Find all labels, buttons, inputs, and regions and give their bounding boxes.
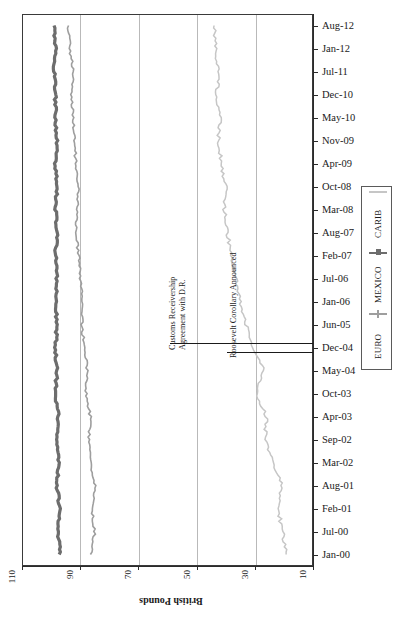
category-label-feb-01: Feb-01 xyxy=(322,503,352,514)
category-label-may-10: May-10 xyxy=(322,112,355,123)
category-tick-dec-04 xyxy=(313,348,318,349)
category-tick-jul-06 xyxy=(313,279,318,280)
category-label-dec-10: Dec-10 xyxy=(322,89,353,100)
category-label-may-04: May-04 xyxy=(322,365,355,376)
category-tick-apr-03 xyxy=(313,417,318,418)
category-label-dec-04: Dec-04 xyxy=(322,342,353,353)
annotation-line-roosevelt xyxy=(227,352,313,353)
category-tick-feb-01 xyxy=(313,509,318,510)
value-tick-label-90: 90 xyxy=(65,570,95,579)
category-tick-aug-01 xyxy=(313,486,318,487)
category-tick-jun-05 xyxy=(313,325,318,326)
category-label-mar-02: Mar-02 xyxy=(322,457,353,468)
category-label-oct-03: Oct-03 xyxy=(322,388,351,399)
category-label-aug-01: Aug-01 xyxy=(322,480,354,491)
category-tick-oct-08 xyxy=(313,187,318,188)
value-tick-label-70: 70 xyxy=(123,570,153,579)
category-tick-jan-06 xyxy=(313,302,318,303)
chart-root: Customs Receivership Agreement with D.R.… xyxy=(0,0,398,629)
series-line-carib xyxy=(214,26,287,555)
value-tick-label-10: 10 xyxy=(298,570,328,579)
category-label-apr-09: Apr-09 xyxy=(322,158,352,169)
legend[interactable]: CARIBMEXICOEURO xyxy=(361,186,392,370)
category-tick-apr-09 xyxy=(313,164,318,165)
legend-marker-carib-icon xyxy=(369,187,387,197)
category-tick-aug-12 xyxy=(313,26,318,27)
category-label-jul-11: Jul-11 xyxy=(322,66,348,77)
legend-item-carib[interactable]: CARIB xyxy=(362,187,393,247)
category-label-jan-12: Jan-12 xyxy=(322,43,350,54)
series-line-mexico xyxy=(53,26,60,555)
value-axis-title: British Pounds xyxy=(96,596,246,607)
category-label-jul-00: Jul-00 xyxy=(322,526,348,537)
annotation-text-customs-line1: Customs Receivership xyxy=(168,277,178,350)
category-label-feb-07: Feb-07 xyxy=(322,250,352,261)
category-label-jun-05: Jun-05 xyxy=(322,319,351,330)
category-tick-nov-09 xyxy=(313,141,318,142)
category-tick-sep-02 xyxy=(313,440,318,441)
annotation-text-roosevelt: Roosevelt Corollary Announced xyxy=(229,252,239,358)
category-tick-dec-10 xyxy=(313,95,318,96)
legend-label-carib: CARIB xyxy=(362,201,393,247)
category-label-aug-12: Aug-12 xyxy=(322,20,354,31)
value-tick-label-110: 110 xyxy=(7,570,37,583)
category-label-aug-07: Aug-07 xyxy=(322,227,354,238)
legend-label-mexico: MEXICO xyxy=(362,262,393,308)
category-tick-jan-12 xyxy=(313,49,318,50)
legend-label-euro: EURO xyxy=(362,323,393,369)
annotation-text-customs-line2: Agreement with D.R. xyxy=(178,280,188,351)
category-label-apr-03: Apr-03 xyxy=(322,411,352,422)
series-line-euro xyxy=(67,26,95,555)
category-tick-mar-08 xyxy=(313,210,318,211)
annotation-line-customs xyxy=(170,343,313,344)
value-tick-label-50: 50 xyxy=(182,570,212,579)
category-label-oct-08: Oct-08 xyxy=(322,181,351,192)
category-label-jan-06: Jan-06 xyxy=(322,296,350,307)
category-tick-oct-03 xyxy=(313,394,318,395)
legend-item-mexico[interactable]: MEXICO xyxy=(362,248,393,308)
category-tick-jul-11 xyxy=(313,72,318,73)
category-axis xyxy=(313,14,314,567)
category-tick-may-04 xyxy=(313,371,318,372)
category-tick-jan-00 xyxy=(313,555,318,556)
legend-item-euro[interactable]: EURO xyxy=(362,309,393,369)
category-tick-may-10 xyxy=(313,118,318,119)
category-tick-aug-07 xyxy=(313,233,318,234)
value-axis xyxy=(22,566,314,567)
value-tick-label-30: 30 xyxy=(240,570,270,579)
category-tick-mar-02 xyxy=(313,463,318,464)
category-tick-jul-00 xyxy=(313,532,318,533)
category-label-jul-06: Jul-06 xyxy=(322,273,348,284)
category-label-nov-09: Nov-09 xyxy=(322,135,354,146)
category-tick-feb-07 xyxy=(313,256,318,257)
category-label-jan-00: Jan-00 xyxy=(322,549,350,560)
category-label-mar-08: Mar-08 xyxy=(322,204,353,215)
category-label-sep-02: Sep-02 xyxy=(322,434,352,445)
legend-marker-mexico-icon xyxy=(369,248,387,258)
legend-marker-euro-icon xyxy=(369,309,387,319)
